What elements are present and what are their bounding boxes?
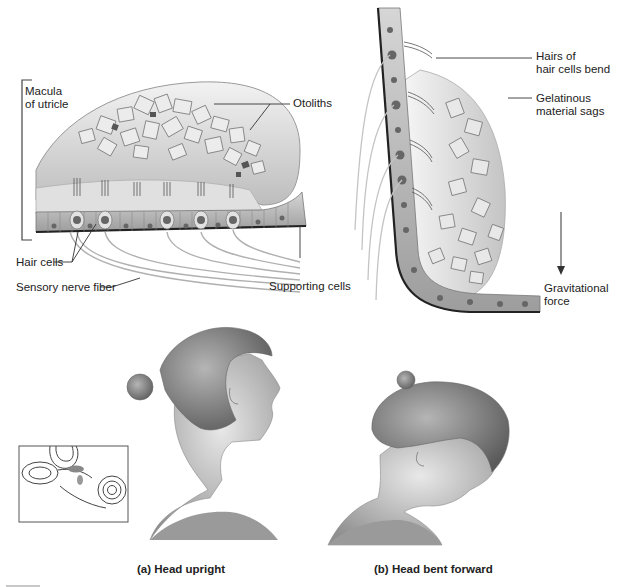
label-hairs-bend-line2: hair cells bend <box>536 63 610 76</box>
label-gelatinous-line2: material sags <box>536 105 604 118</box>
label-gelatinous-line1: Gelatinous <box>536 92 604 105</box>
label-macula-line2: of utricle <box>25 98 68 111</box>
label-sensory-nerve-fiber: Sensory nerve fiber <box>16 281 116 294</box>
hair-bun-upright <box>127 374 153 400</box>
saccule-highlight <box>77 475 83 485</box>
hair-bun-bent <box>397 371 415 389</box>
label-macula-of-utricle: Macula of utricle <box>25 85 68 111</box>
label-otoliths: Otoliths <box>293 97 332 110</box>
utricle-highlight <box>68 466 84 473</box>
label-gravitational-force: Gravitational force <box>544 282 609 308</box>
gravity-arrow-icon <box>557 212 565 275</box>
label-gelatinous-material: Gelatinous material sags <box>536 92 604 118</box>
inner-ear-inset <box>19 446 128 522</box>
label-supporting-cells: Supporting cells <box>269 280 351 293</box>
label-hair-cells: Hair cells <box>16 256 63 269</box>
head-bent-illustration <box>328 371 509 545</box>
label-hairs-bend: Hairs of hair cells bend <box>536 50 610 76</box>
macula-tilted-illustration <box>355 8 565 312</box>
label-hairs-bend-line1: Hairs of <box>536 50 610 63</box>
label-gravity-line1: Gravitational <box>544 282 609 295</box>
label-macula-line1: Macula <box>25 85 68 98</box>
caption-head-bent-forward: (b) Head bent forward <box>374 563 493 575</box>
head-upright-illustration <box>127 327 280 540</box>
caption-head-upright: (a) Head upright <box>137 563 225 575</box>
macula-illustration <box>22 80 306 292</box>
label-gravity-line2: force <box>544 295 609 308</box>
